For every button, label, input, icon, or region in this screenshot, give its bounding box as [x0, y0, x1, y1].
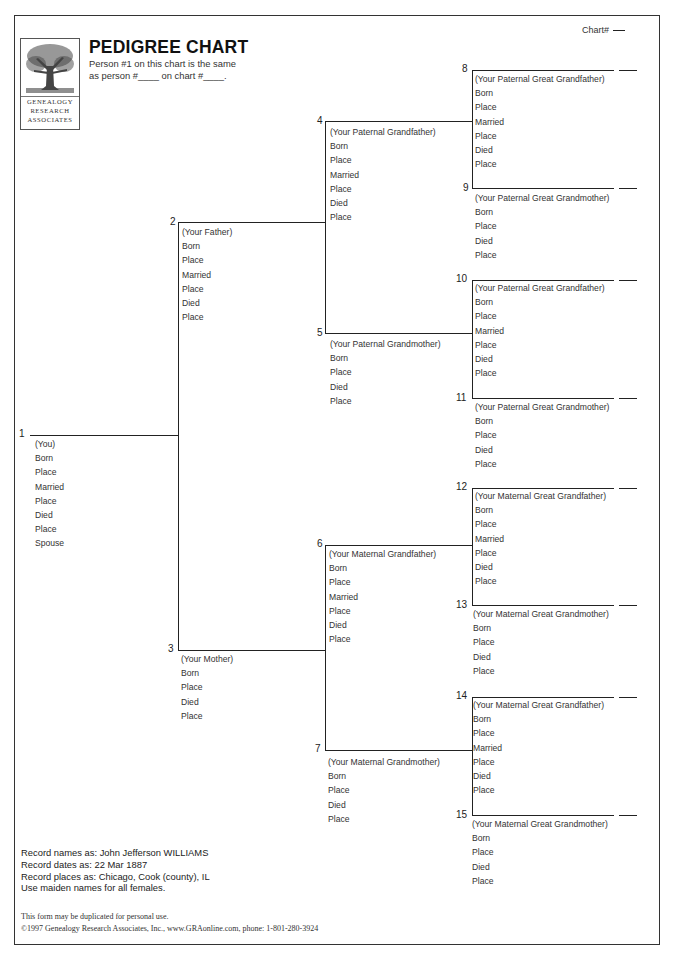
field-born[interactable]: Born: [473, 621, 609, 635]
field-died[interactable]: Died: [181, 695, 233, 709]
field-place[interactable]: Place: [475, 157, 605, 171]
continuation-15[interactable]: [619, 815, 637, 816]
field-died[interactable]: Died: [475, 234, 609, 248]
field-place[interactable]: Place: [475, 219, 609, 233]
continuation-13[interactable]: [619, 605, 637, 606]
continuation-8[interactable]: [619, 70, 637, 71]
field-place[interactable]: Place: [182, 282, 232, 296]
field-place[interactable]: Place: [475, 129, 605, 143]
field-married[interactable]: Married: [475, 532, 606, 546]
field-place[interactable]: Place: [181, 709, 233, 723]
continuation-12[interactable]: [619, 488, 637, 489]
field-place[interactable]: Place: [330, 182, 436, 196]
field-place[interactable]: Place: [328, 783, 440, 797]
field-born[interactable]: Born: [475, 86, 605, 100]
field-died[interactable]: Died: [473, 650, 609, 664]
field-died[interactable]: Died: [182, 296, 232, 310]
chart-number[interactable]: Chart#: [582, 25, 625, 35]
field-died[interactable]: Died: [472, 860, 608, 874]
field-place[interactable]: Place: [475, 309, 605, 323]
field-died[interactable]: Died: [330, 196, 436, 210]
person-7-line[interactable]: [325, 750, 473, 751]
field-married[interactable]: Married: [330, 168, 436, 182]
person-6-line[interactable]: [325, 545, 473, 546]
field-born[interactable]: Born: [328, 769, 440, 783]
field-born[interactable]: Born: [475, 503, 606, 517]
field-place[interactable]: Place: [475, 366, 605, 380]
field-born[interactable]: Born: [472, 831, 608, 845]
field-born[interactable]: Born: [330, 351, 441, 365]
field-died[interactable]: Died: [35, 508, 64, 522]
continuation-14[interactable]: [619, 697, 637, 698]
person-1-line[interactable]: [30, 435, 179, 436]
field-place[interactable]: Place: [473, 664, 609, 678]
person-13-line[interactable]: [472, 605, 614, 606]
field-died[interactable]: Died: [328, 798, 440, 812]
continuation-10[interactable]: [619, 280, 637, 281]
field-place[interactable]: Place: [475, 338, 605, 352]
field-place[interactable]: Place: [35, 465, 64, 479]
field-place[interactable]: Place: [330, 153, 436, 167]
field-place[interactable]: Place: [35, 522, 64, 536]
person-15-line[interactable]: [472, 815, 614, 816]
field-born[interactable]: Born: [182, 239, 232, 253]
field-born[interactable]: Born: [35, 451, 64, 465]
field-place[interactable]: Place: [330, 394, 441, 408]
field-married[interactable]: Married: [475, 115, 605, 129]
field-place[interactable]: Place: [181, 680, 233, 694]
field-place[interactable]: Place: [182, 310, 232, 324]
field-place[interactable]: Place: [473, 726, 604, 740]
field-place[interactable]: Place: [475, 457, 609, 471]
field-married[interactable]: Married: [182, 268, 232, 282]
person-5-line[interactable]: [325, 333, 473, 334]
field-place[interactable]: Place: [475, 248, 609, 262]
person-9-line[interactable]: [472, 188, 614, 189]
person-3-line[interactable]: [178, 650, 326, 651]
field-place[interactable]: Place: [475, 517, 606, 531]
field-born[interactable]: Born: [475, 414, 609, 428]
field-died[interactable]: Died: [329, 618, 436, 632]
field-died[interactable]: Died: [475, 443, 609, 457]
field-place[interactable]: Place: [475, 428, 609, 442]
field-place[interactable]: Place: [475, 100, 605, 114]
continuation-9[interactable]: [619, 188, 637, 189]
field-born[interactable]: Born: [330, 139, 436, 153]
person-11-line[interactable]: [472, 398, 614, 399]
field-died[interactable]: Died: [475, 352, 605, 366]
field-place[interactable]: Place: [182, 253, 232, 267]
field-place[interactable]: Place: [330, 365, 441, 379]
continuation-11[interactable]: [619, 398, 637, 399]
field-place[interactable]: Place: [472, 845, 608, 859]
field-married[interactable]: Married: [475, 324, 605, 338]
field-born[interactable]: Born: [329, 561, 436, 575]
field-born[interactable]: Born: [181, 666, 233, 680]
field-born[interactable]: Born: [473, 712, 604, 726]
field-married[interactable]: Married: [35, 480, 64, 494]
person-4-line[interactable]: [325, 121, 473, 122]
field-place[interactable]: Place: [473, 783, 604, 797]
field-place[interactable]: Place: [329, 575, 436, 589]
person-8-line[interactable]: [472, 70, 614, 71]
field-born[interactable]: Born: [475, 205, 609, 219]
field-spouse[interactable]: Spouse: [35, 536, 64, 550]
field-died[interactable]: Died: [475, 560, 606, 574]
field-place[interactable]: Place: [473, 635, 609, 649]
field-married[interactable]: Married: [329, 590, 436, 604]
field-place[interactable]: Place: [328, 812, 440, 826]
subtitle-line2[interactable]: as person #____ on chart #____.: [89, 70, 236, 82]
field-died[interactable]: Died: [330, 380, 441, 394]
field-place[interactable]: Place: [35, 494, 64, 508]
field-place[interactable]: Place: [475, 574, 606, 588]
field-place[interactable]: Place: [329, 632, 436, 646]
chart-number-blank[interactable]: [613, 30, 625, 31]
field-married[interactable]: Married: [473, 741, 604, 755]
field-died[interactable]: Died: [473, 769, 604, 783]
field-born[interactable]: Born: [475, 295, 605, 309]
field-place[interactable]: Place: [475, 546, 606, 560]
person-2-line[interactable]: [178, 222, 326, 223]
field-place[interactable]: Place: [329, 604, 436, 618]
field-place[interactable]: Place: [472, 874, 608, 888]
field-died[interactable]: Died: [475, 143, 605, 157]
field-place[interactable]: Place: [330, 210, 436, 224]
field-place[interactable]: Place: [473, 755, 604, 769]
